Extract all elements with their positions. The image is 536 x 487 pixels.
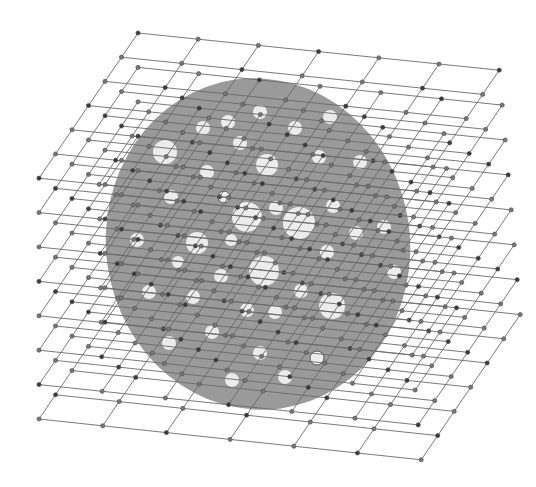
lattice-node xyxy=(181,130,185,134)
lattice-node xyxy=(305,178,309,182)
lattice-node xyxy=(180,96,184,100)
lattice-node xyxy=(180,372,184,376)
lattice-node xyxy=(165,223,169,227)
lattice-node xyxy=(183,303,187,307)
lattice-node xyxy=(435,295,439,299)
lattice-node xyxy=(132,237,136,241)
lattice-node xyxy=(437,62,441,66)
lattice-node xyxy=(381,125,385,129)
lattice-node xyxy=(496,267,500,271)
lattice-node xyxy=(207,116,211,120)
lattice-node xyxy=(70,265,74,269)
lattice-node xyxy=(182,234,186,238)
lattice-node xyxy=(493,232,497,236)
lattice-node xyxy=(372,427,376,431)
lattice-node xyxy=(391,299,395,303)
lattice-node xyxy=(100,389,104,393)
lattice-node xyxy=(327,128,331,132)
lattice-node xyxy=(377,56,381,60)
lattice-node xyxy=(308,247,312,251)
lattice-node xyxy=(197,382,201,386)
lattice-node xyxy=(181,406,185,410)
lattice-node xyxy=(503,138,507,142)
lattice-node xyxy=(243,378,247,382)
lattice-node xyxy=(166,258,170,262)
lattice-node xyxy=(497,68,501,72)
lattice-node xyxy=(37,245,41,249)
lattice-node xyxy=(449,236,453,240)
lattice-node xyxy=(329,163,333,167)
lattice-node xyxy=(469,385,473,389)
lattice-node xyxy=(354,278,358,282)
lattice-node xyxy=(479,291,483,295)
lattice-node xyxy=(97,182,101,186)
lattice-node xyxy=(304,350,308,354)
lattice-node xyxy=(463,315,467,319)
lattice-node xyxy=(198,175,202,179)
lattice-node xyxy=(208,151,212,155)
lattice-node xyxy=(115,262,119,266)
lattice-node xyxy=(103,251,107,255)
lattice-node xyxy=(37,417,41,421)
lattice-node xyxy=(368,219,372,223)
lattice-node xyxy=(197,106,201,110)
hole-circle xyxy=(153,140,177,164)
lattice-node xyxy=(379,90,383,94)
lattice-node xyxy=(53,393,57,397)
lattice-node xyxy=(70,334,74,338)
lattice-node xyxy=(309,282,313,286)
lattice-node xyxy=(308,420,312,424)
lattice-node xyxy=(136,203,140,207)
lattice-node xyxy=(165,189,169,193)
lattice-node xyxy=(196,348,200,352)
lattice-node xyxy=(292,444,296,448)
lattice-node xyxy=(101,424,105,428)
lattice-node xyxy=(150,317,154,321)
lattice-node xyxy=(288,375,292,379)
lattice-node xyxy=(404,110,408,114)
lattice-node xyxy=(114,158,118,162)
lattice-node xyxy=(509,208,513,212)
lattice-node xyxy=(86,104,90,108)
lattice-node xyxy=(223,92,227,96)
lattice-node xyxy=(405,378,409,382)
lattice-node xyxy=(303,143,307,147)
lattice-node xyxy=(119,55,123,59)
lattice-node xyxy=(327,292,331,296)
lattice-node xyxy=(344,104,348,108)
lattice-node xyxy=(148,213,152,217)
lattice-node xyxy=(487,162,491,166)
lattice-node xyxy=(515,278,519,282)
lattice-node xyxy=(439,97,443,101)
lattice-node xyxy=(452,409,456,413)
lattice-node xyxy=(259,147,263,151)
lattice-node xyxy=(149,282,153,286)
lattice-node xyxy=(164,155,168,159)
lattice-node xyxy=(287,167,291,171)
lattice-node xyxy=(451,176,455,180)
lattice-node xyxy=(323,188,327,192)
lattice-node xyxy=(103,114,107,118)
lattice-node xyxy=(421,354,425,358)
lattice-node xyxy=(466,350,470,354)
lattice-node xyxy=(119,90,123,94)
lattice-node xyxy=(103,217,107,221)
lattice-node xyxy=(454,306,458,310)
lattice-node xyxy=(395,239,399,243)
lattice-node xyxy=(37,211,41,215)
lattice-node xyxy=(225,161,229,165)
lattice-node xyxy=(460,280,464,284)
lattice-node xyxy=(321,154,325,158)
lattice-node xyxy=(457,245,461,249)
lattice-node xyxy=(290,237,294,241)
lattice-node xyxy=(416,284,420,288)
lattice-node xyxy=(512,243,516,247)
lattice-node xyxy=(388,403,392,407)
lattice-node xyxy=(136,237,140,241)
lattice-node xyxy=(130,134,134,138)
hole-circle xyxy=(353,155,367,169)
lattice-node xyxy=(114,193,118,197)
lattice-node xyxy=(326,257,330,261)
lattice-node xyxy=(164,431,168,435)
lattice-node xyxy=(500,103,504,107)
